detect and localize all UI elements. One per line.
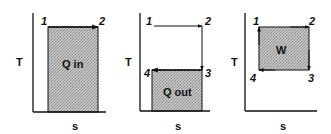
point-3-label: 3: [308, 72, 314, 84]
point-4-label: 4: [143, 67, 150, 79]
point-2-label: 2: [204, 15, 211, 27]
panel-heat-out: 1 2 3 4 Q out T s: [125, 13, 211, 132]
x-axis-label: s: [72, 120, 78, 132]
y-axis-label: T: [16, 56, 23, 68]
point-2-label: 2: [308, 15, 315, 27]
point-4-label: 4: [249, 72, 256, 84]
region-label: Q in: [62, 58, 84, 70]
region-label: W: [276, 44, 287, 56]
point-2-label: 2: [98, 15, 105, 27]
region-label: Q out: [163, 86, 192, 98]
point-1-label: 1: [146, 15, 152, 27]
point-1-label: 1: [253, 15, 259, 27]
x-axis-label: s: [280, 120, 286, 132]
panel-net-work: 1 2 3 4 W T s: [231, 13, 317, 132]
x-axis-label: s: [175, 120, 181, 132]
ts-diagrams: 1 2 Q in T s 1 2 3 4 Q out T s 1 2 3 4 W…: [0, 0, 331, 134]
y-axis-label: T: [125, 56, 132, 68]
point-3-label: 3: [205, 67, 211, 79]
point-1-label: 1: [41, 15, 47, 27]
y-axis-label: T: [231, 56, 238, 68]
panel-heat-in: 1 2 Q in T s: [16, 13, 106, 132]
